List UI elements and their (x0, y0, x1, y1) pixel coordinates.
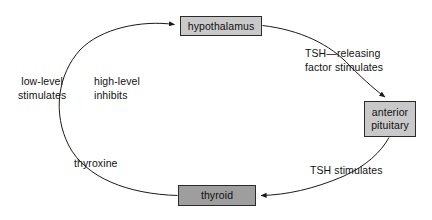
annotation-low-level-line2: stimulates (18, 88, 66, 102)
edge-label-thyroxine: thyroxine (74, 156, 118, 170)
annotation-high-level-line1: high-level (94, 74, 140, 88)
node-anterior-pituitary-label: anterior pituitary (371, 106, 409, 132)
node-anterior-pituitary-label-line2: pituitary (371, 119, 409, 131)
edge-label-tsh-stimulates: TSH stimulates (310, 163, 383, 177)
annotation-low-level: low-level stimulates (18, 74, 66, 103)
edge-label-tsh-releasing-factor: TSH—releasing factor stimulates (305, 46, 383, 75)
node-thyroid[interactable]: thyroid (178, 185, 256, 206)
node-anterior-pituitary-label-line1: anterior (372, 106, 408, 118)
node-hypothalamus-label: hypothalamus (188, 20, 255, 33)
node-hypothalamus[interactable]: hypothalamus (180, 16, 262, 36)
edge-label-thyroxine-line1: thyroxine (74, 156, 118, 170)
edge-label-tsh-stimulates-line1: TSH stimulates (310, 163, 383, 177)
annotation-high-level-line2: inhibits (94, 88, 140, 102)
node-anterior-pituitary[interactable]: anterior pituitary (364, 101, 416, 137)
annotation-low-level-line1: low-level (18, 74, 66, 88)
diagram-canvas: hypothalamus anterior pituitary thyroid … (0, 0, 432, 220)
edge-label-tsh-releasing-line2: factor stimulates (305, 60, 383, 74)
edge-label-tsh-releasing-line1: TSH—releasing (305, 46, 383, 60)
annotation-high-level: high-level inhibits (94, 74, 140, 103)
node-thyroid-label: thyroid (201, 189, 233, 202)
